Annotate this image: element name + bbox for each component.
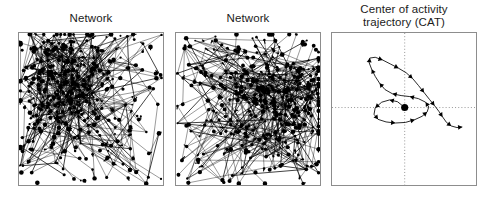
panel-network-2: Network bbox=[175, 0, 321, 186]
panel-cat-plot-area bbox=[331, 32, 477, 186]
network-graph-1 bbox=[19, 33, 163, 185]
panel-network-1: Network bbox=[18, 0, 164, 186]
figure-panel-group: Network Network Center of activity traje… bbox=[0, 0, 495, 197]
panel-network-2-plot-area bbox=[175, 32, 321, 186]
panel-network-2-title: Network bbox=[175, 12, 321, 25]
panel-network-1-plot-area bbox=[18, 32, 164, 186]
panel-network-1-title: Network bbox=[18, 12, 164, 25]
panel-cat-title: Center of activity trajectory (CAT) bbox=[331, 3, 477, 29]
panel-cat: Center of activity trajectory (CAT) bbox=[331, 0, 477, 186]
network-graph-2 bbox=[176, 33, 320, 185]
cat-trajectory-plot bbox=[332, 33, 476, 185]
